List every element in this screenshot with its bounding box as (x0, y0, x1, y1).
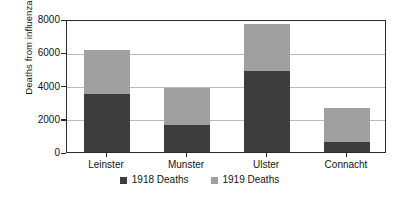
bar-segment[interactable] (84, 50, 130, 94)
x-axis-tick-label: Leinster (61, 159, 151, 170)
legend-label: 1919 Deaths (223, 175, 280, 185)
x-axis-tick-label: Connacht (301, 159, 391, 170)
y-axis-tick-mark (61, 20, 66, 21)
y-axis-tick-labels: 80006000400020000 (18, 20, 60, 153)
legend-entry[interactable]: 1919 Deaths (211, 175, 280, 185)
bar-segment[interactable] (324, 108, 370, 142)
y-axis-tick-label: 0 (20, 148, 60, 158)
bar-group[interactable] (324, 108, 370, 152)
bar-segment[interactable] (84, 94, 130, 152)
x-axis-tick-mark (346, 153, 347, 157)
y-axis-tick-mark (61, 153, 66, 154)
x-axis-tick-label: Ulster (221, 159, 311, 170)
bar-segment[interactable] (324, 142, 370, 152)
y-axis-tick-mark (61, 119, 66, 120)
legend-label: 1918 Deaths (132, 175, 189, 185)
x-axis-tick-label: Munster (141, 159, 231, 170)
y-axis-tick-label: 8000 (20, 15, 60, 25)
x-axis-tick-mark (106, 153, 107, 157)
y-axis-tick-label: 4000 (20, 82, 60, 92)
y-axis-tick-label: 2000 (20, 115, 60, 125)
bar-segment[interactable] (164, 88, 210, 125)
legend-swatch-icon (120, 177, 127, 184)
y-axis-tick-label: 6000 (20, 48, 60, 58)
bar-group[interactable] (244, 24, 290, 152)
x-axis-tick-mark (186, 153, 187, 157)
y-axis-tick-mark (61, 53, 66, 54)
x-axis-tick-mark (266, 153, 267, 157)
stacked-bar-chart: Deaths from influenza 80006000400020000 … (0, 0, 399, 198)
bar-segment[interactable] (244, 24, 290, 71)
bar-group[interactable] (164, 88, 210, 152)
plot-area (66, 20, 386, 153)
chart-legend: 1918 Deaths1919 Deaths (0, 175, 399, 185)
legend-entry[interactable]: 1918 Deaths (120, 175, 189, 185)
bar-segment[interactable] (244, 71, 290, 152)
bar-group[interactable] (84, 50, 130, 152)
legend-swatch-icon (211, 177, 218, 184)
bar-segment[interactable] (164, 125, 210, 152)
y-axis-tick-mark (61, 86, 66, 87)
